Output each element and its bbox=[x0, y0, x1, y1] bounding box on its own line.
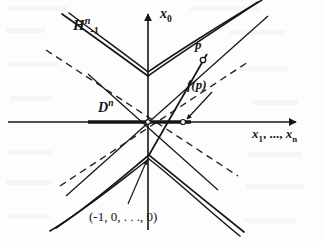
vertex-coordinate-text: (-1, 0, . . ., 0) bbox=[89, 209, 157, 224]
vertex-leader-arrow bbox=[128, 160, 147, 204]
origin-marker bbox=[146, 120, 151, 125]
x0-axis-label-sub: 0 bbox=[167, 14, 172, 24]
point-p-marker bbox=[200, 57, 205, 62]
x0-axis-label-base: x bbox=[160, 6, 167, 21]
disk-label: Dn bbox=[98, 99, 113, 115]
hyperboloid-figure: Hn-1 x0 x1, ..., xn p f(p) Dn (-1, 0, . … bbox=[0, 0, 324, 241]
diagram-canvas bbox=[0, 0, 324, 241]
x-axis-label: x1, ..., xn bbox=[252, 127, 297, 143]
x-axis-label-last-sub: n bbox=[292, 134, 297, 144]
hyperboloid-label: Hn-1 bbox=[73, 16, 99, 36]
point-p-label: p bbox=[195, 38, 202, 51]
image-fp-label: f(p) bbox=[187, 78, 207, 91]
disk-label-sup: n bbox=[108, 98, 113, 108]
hyperboloid-label-sub: -1 bbox=[90, 25, 99, 36]
vertex-coordinate-label: (-1, 0, . . ., 0) bbox=[89, 210, 157, 223]
x0-axis-label: x0 bbox=[160, 7, 172, 24]
hyperboloid-label-base: H bbox=[73, 17, 85, 33]
point-fp-marker bbox=[181, 120, 186, 125]
x-axis-label-sep: , ..., bbox=[263, 126, 286, 141]
asymptote-positive-slope bbox=[60, 62, 248, 186]
fp-leader-arrow bbox=[187, 92, 212, 119]
lower-branch-inner bbox=[50, 159, 240, 236]
disk-label-base: D bbox=[98, 100, 108, 115]
